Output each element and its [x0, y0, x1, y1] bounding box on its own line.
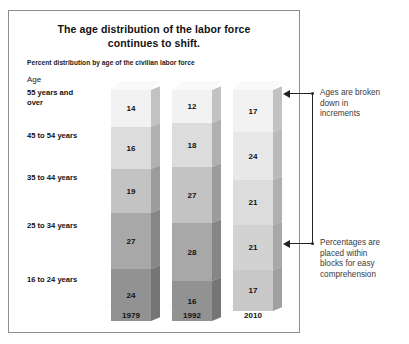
segment-value: 12 [188, 102, 197, 111]
segment-value: 24 [249, 152, 258, 161]
row-label-line-2: over [27, 98, 112, 108]
segment-value: 17 [249, 286, 258, 295]
segment-side-face [273, 128, 282, 180]
segment-side-face [151, 209, 160, 269]
segment-16-to-24[interactable]: 17 [233, 270, 273, 311]
callout-line-2: down in [320, 99, 409, 110]
age-column-heading: Age [27, 75, 41, 84]
chart-page: The age distribution of the labor force … [0, 0, 409, 344]
segment-value: 14 [127, 104, 136, 113]
segment-side-face [151, 123, 160, 169]
segment-45-to-54[interactable]: 16 [111, 127, 151, 169]
segment-35-to-44[interactable]: 27 [172, 167, 212, 223]
bar-2010[interactable]: 17 24 21 21 17 [233, 90, 273, 311]
callout-line-3: increments [320, 109, 409, 120]
callout-arrowline-2 [289, 243, 311, 244]
callout-arrowhead-1 [283, 90, 290, 98]
row-label-35-to-44: 35 to 44 years [27, 173, 112, 183]
row-label-line-1: 16 to 24 years [27, 275, 112, 285]
callout-arrowline-1 [289, 93, 311, 94]
callout-text-1: Ages are broken down in increments [320, 88, 409, 120]
row-label-line-1: 25 to 34 years [27, 221, 112, 231]
year-label-1979: 1979 [102, 311, 160, 320]
callout-line-2: placed within [320, 249, 409, 260]
page-title: The age distribution of the labor force … [8, 22, 300, 50]
bar-1979[interactable]: 14 16 19 27 24 [111, 90, 151, 321]
callout-connector-line [312, 93, 313, 243]
segment-55-and-over[interactable]: 17 [233, 90, 273, 132]
row-label-16-to-24: 16 to 24 years [27, 275, 112, 285]
segment-value: 28 [188, 248, 197, 257]
callout-line-1: Percentages are [320, 238, 409, 249]
chart-subtitle: Percent distribution by age of the civil… [27, 59, 277, 66]
segment-value: 27 [127, 237, 136, 246]
segment-35-to-44[interactable]: 21 [233, 180, 273, 225]
segment-45-to-54[interactable]: 24 [233, 132, 273, 180]
year-label-2010: 2010 [224, 311, 282, 320]
title-line-1: The age distribution of the labor force [8, 22, 300, 36]
row-label-line-1: 35 to 44 years [27, 173, 112, 183]
segment-25-to-34[interactable]: 21 [233, 225, 273, 270]
segment-side-face [151, 165, 160, 213]
segment-25-to-34[interactable]: 27 [111, 213, 151, 269]
segment-side-face [212, 219, 221, 281]
segment-value: 24 [127, 291, 136, 300]
segment-value: 27 [188, 191, 197, 200]
row-label-25-to-34: 25 to 34 years [27, 221, 112, 231]
callout-line-3: blocks for easy [320, 259, 409, 270]
bar-1992[interactable]: 12 18 27 28 16 [172, 90, 212, 321]
segment-side-face [212, 163, 221, 223]
year-label-1992: 1992 [163, 311, 221, 320]
segment-side-face [151, 86, 160, 127]
callout-line-4: comprehension [320, 270, 409, 281]
segment-side-face [273, 86, 282, 132]
segment-55-and-over[interactable]: 14 [111, 90, 151, 127]
row-label-line-1: 45 to 54 years [27, 131, 112, 141]
segment-value: 19 [127, 187, 136, 196]
segment-side-face [273, 266, 282, 311]
segment-value: 16 [127, 144, 136, 153]
row-label-45-to-54: 45 to 54 years [27, 131, 112, 141]
callout-arrowhead-2 [283, 240, 290, 248]
segment-55-and-over[interactable]: 12 [172, 90, 212, 123]
segment-value: 18 [188, 141, 197, 150]
segment-side-face [273, 221, 282, 270]
segment-side-face [212, 119, 221, 167]
row-label-line-1: 55 years and [27, 88, 112, 98]
segment-side-face [212, 86, 221, 123]
segment-45-to-54[interactable]: 18 [172, 123, 212, 167]
segment-35-to-44[interactable]: 19 [111, 169, 151, 213]
segment-25-to-34[interactable]: 28 [172, 223, 212, 281]
callout-line-1: Ages are broken [320, 88, 409, 99]
title-line-2: continues to shift. [8, 36, 300, 50]
segment-value: 16 [188, 297, 197, 306]
segment-value: 17 [249, 107, 258, 116]
callout-text-2: Percentages are placed within blocks for… [320, 238, 409, 280]
segment-value: 21 [249, 198, 258, 207]
segment-side-face [273, 176, 282, 225]
segment-value: 21 [249, 243, 258, 252]
row-label-55-and-over: 55 years and over [27, 88, 112, 107]
